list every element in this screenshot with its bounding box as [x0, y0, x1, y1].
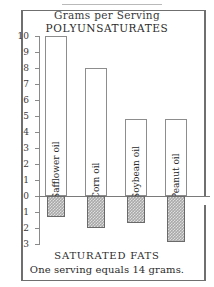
- y-axis-tick-mark: [35, 100, 40, 101]
- y-axis-tick-mark: [35, 148, 40, 149]
- y-axis-tick-label: 8: [13, 64, 29, 73]
- y-axis-tick-label: 3: [13, 240, 29, 249]
- y-axis-tick-label: 9: [13, 48, 29, 57]
- bar-saturated-fats: [47, 196, 65, 217]
- y-axis-tick-label: 1: [13, 176, 29, 185]
- y-axis-tick-label: 3: [13, 144, 29, 153]
- chart-footer-note: One serving equals 14 grams.: [0, 264, 214, 275]
- chart-figure: Grams per Serving POLYUNSATURATES 109876…: [0, 0, 214, 287]
- y-axis-tick-mark: [35, 52, 40, 53]
- y-axis-tick-label: 5: [13, 112, 29, 121]
- y-axis-tick-label: 10: [13, 32, 29, 41]
- bar-saturated-fats: [127, 196, 145, 223]
- y-axis-tick-label: 6: [13, 96, 29, 105]
- y-axis-tick-mark: [35, 132, 40, 133]
- bar-category-label: Safflower oil: [52, 141, 61, 199]
- y-axis-tick-mark: [35, 164, 40, 165]
- bar-category-label: Soybean oil: [132, 146, 141, 199]
- y-axis-tick-mark: [35, 228, 40, 229]
- y-axis-tick-mark: [35, 116, 40, 117]
- y-axis-tick-label: 4: [13, 128, 29, 137]
- y-axis-tick-mark: [35, 244, 40, 245]
- y-axis-tick-mark: [35, 36, 40, 37]
- chart-footer-label: SATURATED FATS: [0, 250, 214, 261]
- bar-category-label: Corn oil: [92, 163, 101, 199]
- bar-category-label: Peanut oil: [172, 153, 181, 199]
- y-axis-tick-label: 1: [13, 208, 29, 217]
- y-axis-tick-label: 2: [13, 160, 29, 169]
- y-axis-tick-label: 2: [13, 224, 29, 233]
- y-axis-tick-mark: [35, 84, 40, 85]
- y-axis-tick-mark: [35, 180, 40, 181]
- y-axis-tick-mark: [35, 212, 40, 213]
- y-axis-tick-label: 0: [13, 192, 29, 201]
- plot-area: 109876543210123Safflower oilCorn oilSoyb…: [0, 0, 214, 287]
- bar-saturated-fats: [87, 196, 105, 228]
- y-axis-tick-label: 7: [13, 80, 29, 89]
- y-axis-tick-mark: [35, 68, 40, 69]
- bar-saturated-fats: [167, 196, 185, 242]
